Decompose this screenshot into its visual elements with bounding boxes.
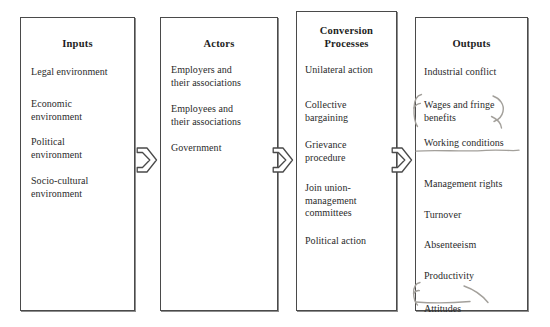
box-conversion-processes-item-0: Unilateral action	[305, 64, 400, 77]
box-conversion-processes-title: Conversion Processes	[297, 25, 396, 50]
box-outputs-item-2: Working conditions	[424, 137, 532, 150]
box-outputs-item-3: Management rights	[424, 178, 532, 191]
box-inputs-item-3: Socio-cultural environment	[31, 175, 136, 200]
box-outputs-title: Outputs	[416, 38, 527, 51]
box-inputs-title: Inputs	[21, 38, 134, 51]
box-outputs: Outputs Industrial conflict Wages and fr…	[415, 17, 528, 311]
box-conversion-processes-item-3: Join union- management committees	[305, 182, 400, 220]
box-inputs: Inputs Legal environment Economic enviro…	[20, 17, 135, 311]
box-outputs-item-5: Absenteeism	[424, 239, 532, 252]
diagram-title: Industrial Relations Systems Framework	[0, 21, 1, 22]
arrow-actors-to-conversion	[272, 137, 294, 183]
box-actors-item-2: Government	[171, 142, 279, 155]
diagram-canvas: Industrial Relations Systems Framework I…	[0, 0, 550, 327]
box-outputs-item-7: Attitudes	[424, 303, 532, 316]
box-outputs-item-4: Turnover	[424, 209, 532, 222]
box-conversion-processes: Conversion Processes Unilateral action C…	[296, 11, 397, 311]
box-outputs-item-0: Industrial conflict	[424, 66, 532, 79]
box-conversion-processes-item-1: Collective bargaining	[305, 99, 400, 124]
arrow-inputs-to-actors	[136, 137, 158, 183]
box-inputs-item-2: Political environment	[31, 136, 136, 161]
box-actors: Actors Employers and their associations …	[160, 17, 278, 311]
box-actors-title: Actors	[161, 38, 277, 51]
box-outputs-item-6: Productivity	[424, 270, 532, 283]
box-actors-item-1: Employees and their associations	[171, 103, 279, 128]
box-outputs-item-1: Wages and fringe benefits	[424, 99, 532, 124]
box-conversion-processes-item-2: Grievance procedure	[305, 139, 400, 164]
arrow-conversion-to-outputs	[391, 137, 413, 183]
box-inputs-item-0: Legal environment	[31, 66, 136, 79]
box-inputs-item-1: Economic environment	[31, 98, 136, 123]
box-conversion-processes-item-4: Political action	[305, 235, 400, 248]
box-actors-item-0: Employers and their associations	[171, 64, 279, 89]
